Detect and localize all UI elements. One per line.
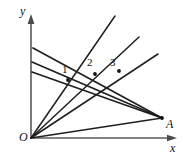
transversal-1: [32, 72, 162, 118]
geometry-figure: y x O A 1 2 3: [0, 0, 183, 159]
index-label-1: 1: [62, 64, 68, 75]
rays-from-origin: [31, 16, 162, 138]
x-axis: [31, 135, 177, 141]
ray-2: [31, 37, 139, 138]
ray-3: [31, 54, 158, 138]
point-a-dot: [160, 116, 164, 120]
intersection-point-3: [117, 69, 121, 73]
index-label-3: 3: [110, 57, 116, 68]
y-axis-arrowhead-icon: [28, 14, 35, 24]
origin-label: O: [19, 131, 28, 143]
transversal-2: [32, 62, 162, 118]
ray-to-point-a: [31, 118, 162, 138]
index-label-2: 2: [87, 57, 93, 68]
x-axis-label: x: [170, 142, 175, 154]
y-axis-label: y: [20, 5, 25, 17]
y-axis: [28, 14, 35, 138]
intersection-point-2: [93, 72, 97, 76]
intersection-point-1: [66, 78, 70, 82]
point-a-label: A: [166, 118, 173, 130]
